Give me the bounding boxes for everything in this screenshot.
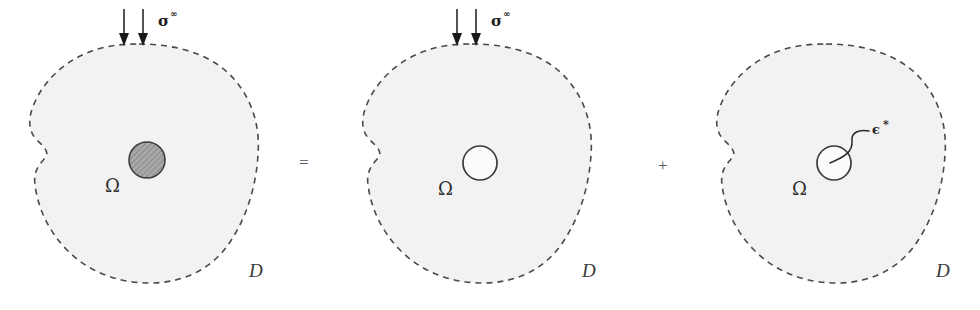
load-arrow [452, 9, 462, 46]
sigma-label: σ [491, 12, 502, 30]
epsilon-superscript: * [883, 118, 889, 131]
load-arrows-2 [452, 9, 481, 46]
inclusion-open-3 [817, 146, 851, 180]
inclusion-label-1: Ω [105, 175, 120, 196]
sigma-superscript: ∞ [170, 9, 178, 19]
load-arrows-1 [119, 9, 148, 46]
panel-homogeneous: σ ∞ Ω D [363, 9, 596, 283]
load-arrow [119, 9, 129, 46]
load-arrow [138, 9, 148, 46]
load-label-1: σ ∞ [158, 9, 178, 30]
diagram-root: σ ∞ Ω D = [0, 0, 980, 310]
load-label-2: σ ∞ [491, 9, 511, 30]
load-arrow [471, 9, 481, 46]
inclusion-hatched-1 [129, 142, 165, 178]
domain-label-2: D [581, 260, 596, 281]
epsilon-label: ϵ [872, 122, 880, 137]
inclusion-label-3: Ω [792, 178, 807, 199]
plus-operator: + [658, 156, 668, 175]
sigma-label: σ [158, 12, 169, 30]
inclusion-open-2 [463, 146, 497, 180]
panel-eigenstrain: ϵ * Ω D [717, 44, 950, 283]
domain-label-1: D [248, 260, 263, 281]
panel-inhomogeneity: σ ∞ Ω D [30, 9, 263, 283]
sigma-superscript: ∞ [503, 9, 511, 19]
domain-label-3: D [935, 260, 950, 281]
decomposition-diagram: σ ∞ Ω D = [0, 0, 980, 310]
inclusion-label-2: Ω [438, 178, 453, 199]
equals-operator: = [299, 153, 309, 172]
